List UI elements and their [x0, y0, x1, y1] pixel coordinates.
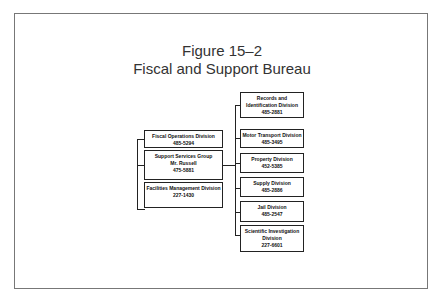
unit-phone: 485-3495: [241, 139, 303, 146]
unit-phone: 485-5294: [145, 140, 222, 147]
connector: [137, 209, 145, 210]
unit-name: Property Division: [241, 156, 303, 163]
org-box-property: Property Division 452-5385: [240, 153, 304, 173]
figure-title: Fiscal and Support Bureau: [0, 60, 444, 77]
connector: [223, 165, 235, 166]
unit-name: Records and Identification Division: [241, 95, 303, 109]
org-box-supply: Supply Division 485-2886: [240, 177, 304, 197]
unit-name: Supply Division: [241, 180, 303, 187]
org-box-jail: Jail Division 485-2547: [240, 201, 304, 222]
org-box-fiscal-operations: Fiscal Operations Division 485-5294: [144, 130, 223, 148]
org-box-records-identification: Records and Identification Division 485-…: [240, 92, 304, 118]
right-connector: [235, 105, 236, 235]
org-box-motor-transport: Motor Transport Division 485-3495: [240, 129, 304, 148]
unit-phone: 452-5385: [241, 163, 303, 170]
unit-phone: 485-2886: [241, 187, 303, 194]
unit-phone: 485-2547: [241, 211, 303, 218]
unit-phone: 227-1430: [145, 192, 222, 199]
unit-name: Support Services Group: [145, 153, 222, 160]
org-box-facilities-management: Facilities Management Division 227-1430: [144, 182, 223, 208]
figure-label: Figure 15–2: [0, 42, 444, 59]
unit-phone: 485-2881: [241, 109, 303, 116]
unit-name: Fiscal Operations Division: [145, 133, 222, 140]
unit-name: Scientific Investigation Division: [241, 228, 303, 242]
org-box-scientific-investigation: Scientific Investigation Division 227-66…: [240, 225, 304, 252]
org-box-support-services: Support Services Group Mr. Russell 475-5…: [144, 150, 223, 180]
unit-name: Facilities Management Division: [145, 185, 222, 192]
unit-name: Jail Division: [241, 204, 303, 211]
unit-phone: 475-5881: [145, 167, 222, 174]
unit-name: Motor Transport Division: [241, 132, 303, 139]
unit-manager: Mr. Russell: [145, 160, 222, 167]
left-connector: [137, 139, 138, 210]
unit-phone: 227-6601: [241, 242, 303, 249]
